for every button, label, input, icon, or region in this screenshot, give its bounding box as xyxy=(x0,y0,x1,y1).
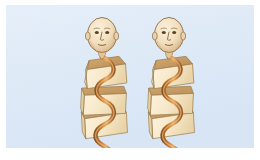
scene-title: Two anatomical figures with spiral coils… xyxy=(0,0,1,1)
panel-background xyxy=(6,5,254,148)
scene-panel: Left figure Right figure Bald head Spira… xyxy=(6,5,254,148)
illustration-root: Two anatomical figures with spiral coils… xyxy=(0,0,260,160)
scene-canvas xyxy=(6,5,254,148)
